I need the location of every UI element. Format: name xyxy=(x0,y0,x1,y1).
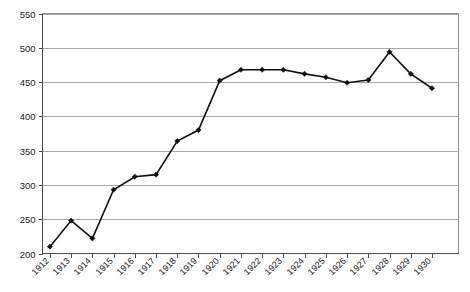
data-point-marker: 1926: 449 xyxy=(344,80,349,85)
x-tick-label: 1919 xyxy=(178,256,199,277)
x-tick-label: 1915 xyxy=(94,256,115,277)
data-point-marker: 1923: 468 xyxy=(281,67,286,72)
x-tick-label: 1925 xyxy=(306,256,327,277)
data-point-marker: 1922: 468 xyxy=(260,67,265,72)
y-tick-label: 450 xyxy=(20,77,36,88)
x-tick-label: 1929 xyxy=(391,256,412,277)
x-tick-label: 1928 xyxy=(370,256,391,277)
x-tick-label: 1913 xyxy=(51,256,72,277)
y-tick-label: 250 xyxy=(20,214,36,225)
y-tick-label: 200 xyxy=(20,249,36,260)
line-chart: 2002503003504004505005501912191319141915… xyxy=(0,0,470,292)
x-tick-label: 1918 xyxy=(157,256,178,277)
y-tick-label: 400 xyxy=(20,111,36,122)
chart-canvas: 2002503003504004505005501912191319141915… xyxy=(0,0,470,292)
y-tick-label: 550 xyxy=(20,9,36,20)
x-tick-label: 1917 xyxy=(136,256,157,277)
x-tick-label: 1914 xyxy=(72,256,93,277)
data-point-marker: 1925: 457 xyxy=(323,75,328,80)
x-tick-label: 1920 xyxy=(200,256,221,277)
x-tick-label: 1923 xyxy=(263,256,284,277)
x-axis: 1912191319141915191619171918191919201921… xyxy=(30,254,459,278)
y-tick-label: 350 xyxy=(20,146,36,157)
x-tick-label: 1921 xyxy=(221,256,242,277)
gridlines-horizontal xyxy=(43,15,459,220)
plot-frame xyxy=(43,14,459,254)
x-tick-label: 1916 xyxy=(115,256,136,277)
data-point-marker: 1924: 462 xyxy=(302,71,307,76)
x-tick-label: 1930 xyxy=(412,256,433,277)
x-tick-label: 1924 xyxy=(285,256,306,277)
y-tick-label: 300 xyxy=(20,180,36,191)
x-tick-label: 1927 xyxy=(348,256,369,277)
x-tick-label: 1926 xyxy=(327,256,348,277)
y-tick-label: 500 xyxy=(20,43,36,54)
y-axis: 200250300350400450500550 xyxy=(20,9,43,260)
series-line xyxy=(50,52,432,247)
plot-area-border xyxy=(43,14,459,254)
x-tick-label: 1922 xyxy=(242,256,263,277)
